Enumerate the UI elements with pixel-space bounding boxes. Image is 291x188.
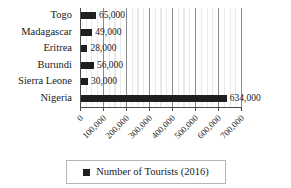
category-label-burundi: Burundi bbox=[38, 60, 72, 70]
x-tick-mark-500000 bbox=[195, 108, 196, 111]
bar-value-nigeria: 634,000 bbox=[230, 91, 261, 105]
bar-nigeria bbox=[81, 95, 227, 102]
x-tick-mark-0 bbox=[80, 108, 81, 111]
x-tick-label-600000: 600,000 bbox=[195, 113, 223, 141]
x-tick-label-300000: 300,000 bbox=[126, 113, 154, 141]
bar-eritrea bbox=[81, 45, 87, 52]
legend-label: Number of Tourists (2016) bbox=[96, 166, 209, 178]
category-label-eritrea: Eritrea bbox=[43, 43, 72, 53]
bar-value-madagascar: 49,000 bbox=[95, 25, 121, 39]
chart-legend: Number of Tourists (2016) bbox=[66, 160, 226, 184]
bar-value-sierra-leone: 30,000 bbox=[91, 74, 117, 88]
bar-sierra-leone bbox=[81, 78, 88, 85]
bar-madagascar bbox=[81, 29, 92, 36]
x-tick-label-700000: 700,000 bbox=[218, 113, 246, 141]
category-label-togo: Togo bbox=[51, 10, 72, 20]
x-tick-label-500000: 500,000 bbox=[172, 113, 200, 141]
bar-row: 49,000 bbox=[81, 25, 241, 42]
x-tick-mark-200000 bbox=[126, 108, 127, 111]
x-tick-mark-700000 bbox=[241, 108, 242, 111]
bar-row: 634,000 bbox=[81, 91, 241, 108]
bar-chart: TogoMadagascarEritreaBurundiSierra Leone… bbox=[0, 0, 291, 188]
bar-series: 65,00049,00028,00056,00030,000634,000 bbox=[81, 8, 241, 107]
x-tick-mark-600000 bbox=[218, 108, 219, 111]
bar-value-burundi: 56,000 bbox=[97, 58, 123, 72]
category-label-sierra-leone: Sierra Leone bbox=[18, 76, 72, 86]
x-tick-label-400000: 400,000 bbox=[149, 113, 177, 141]
bar-row: 28,000 bbox=[81, 41, 241, 58]
bar-burundi bbox=[81, 62, 94, 69]
x-tick-label-200000: 200,000 bbox=[103, 113, 131, 141]
bar-togo bbox=[81, 12, 96, 19]
bar-row: 65,000 bbox=[81, 8, 241, 25]
bar-row: 56,000 bbox=[81, 58, 241, 75]
x-axis-tick-labels: 0100,000200,000300,000400,000500,000600,… bbox=[0, 108, 291, 152]
category-label-madagascar: Madagascar bbox=[21, 27, 72, 37]
x-tick-label-0: 0 bbox=[75, 113, 85, 123]
bar-row: 30,000 bbox=[81, 74, 241, 91]
x-tick-mark-100000 bbox=[103, 108, 104, 111]
bar-value-togo: 65,000 bbox=[99, 8, 125, 22]
x-tick-label-100000: 100,000 bbox=[80, 113, 108, 141]
category-label-nigeria: Nigeria bbox=[41, 93, 73, 103]
legend-swatch-icon bbox=[83, 169, 90, 176]
x-tick-mark-300000 bbox=[149, 108, 150, 111]
x-tick-mark-400000 bbox=[172, 108, 173, 111]
bar-value-eritrea: 28,000 bbox=[90, 41, 116, 55]
y-axis-category-labels: TogoMadagascarEritreaBurundiSierra Leone… bbox=[0, 8, 76, 107]
